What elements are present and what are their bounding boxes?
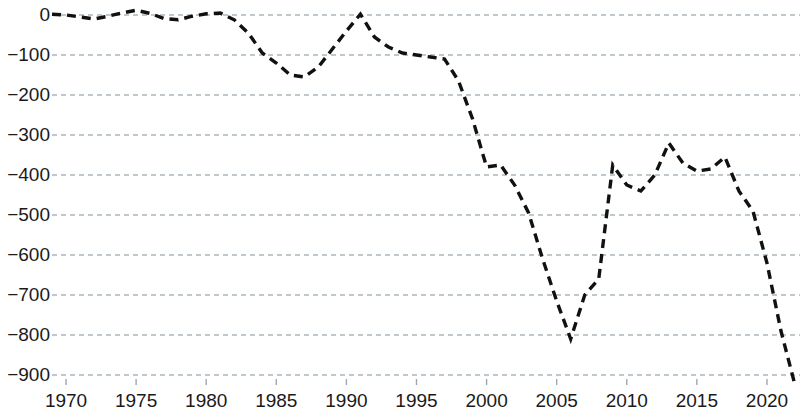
y-tick-label: −700 xyxy=(7,284,50,306)
x-tick-label: 1990 xyxy=(325,390,367,412)
x-tick-label: 2015 xyxy=(676,390,718,412)
x-tick-label: 2000 xyxy=(465,390,507,412)
x-tick-label: 2020 xyxy=(746,390,788,412)
x-tick-label: 2010 xyxy=(606,390,648,412)
x-tick-label: 2005 xyxy=(536,390,578,412)
y-tick-label: −600 xyxy=(7,244,50,266)
x-tick-label: 1995 xyxy=(395,390,437,412)
y-tick-label: −400 xyxy=(7,164,50,186)
x-tick-label: 1985 xyxy=(255,390,297,412)
line-chart: 0−100−200−300−400−500−600−700−800−900 19… xyxy=(0,0,800,415)
gridlines-group xyxy=(52,15,800,375)
y-tick-label: −200 xyxy=(7,84,50,106)
y-tick-label: −500 xyxy=(7,204,50,226)
y-tick-label: −800 xyxy=(7,324,50,346)
x-tick-label: 1975 xyxy=(115,390,157,412)
y-tick-label: −900 xyxy=(7,364,50,386)
y-tick-label: −100 xyxy=(7,44,50,66)
x-tick-label: 1970 xyxy=(45,390,87,412)
series-path-value xyxy=(52,10,795,385)
data-series-line xyxy=(52,10,795,385)
chart-canvas xyxy=(0,0,800,415)
y-tick-label: 0 xyxy=(39,4,50,26)
x-tick-marks-group xyxy=(66,379,767,385)
y-tick-label: −300 xyxy=(7,124,50,146)
x-tick-label: 1980 xyxy=(185,390,227,412)
